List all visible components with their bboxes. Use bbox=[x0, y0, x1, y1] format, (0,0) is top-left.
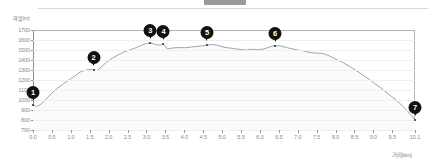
x-tick-label: 6.5 bbox=[275, 134, 282, 140]
y-gridline bbox=[33, 70, 415, 71]
y-tick-mark bbox=[31, 110, 33, 111]
waypoint-dot-4 bbox=[162, 43, 164, 45]
x-tick-mark bbox=[354, 130, 355, 133]
y-tick-label: 1600 bbox=[18, 37, 30, 43]
y-tick-mark bbox=[31, 80, 33, 81]
y-gridline bbox=[33, 30, 415, 31]
elevation-profile-widget: 해발(m) 1700160015001400130012001100100090… bbox=[0, 0, 437, 161]
y-tick-label: 800 bbox=[21, 117, 30, 123]
y-gridline bbox=[33, 120, 415, 121]
x-tick-label: 3.5 bbox=[162, 134, 169, 140]
y-axis-title: 해발(m) bbox=[13, 14, 30, 21]
y-tick-mark bbox=[31, 120, 33, 121]
scroll-handle[interactable] bbox=[204, 0, 246, 5]
waypoint-dot-6 bbox=[274, 45, 276, 47]
y-tick-label: 1700 bbox=[18, 27, 30, 33]
x-tick-mark bbox=[336, 130, 337, 133]
x-tick-label: 9.0 bbox=[370, 134, 377, 140]
y-gridline bbox=[33, 110, 415, 111]
y-tick-label: 900 bbox=[21, 107, 30, 113]
x-tick-label: 5.0 bbox=[218, 134, 225, 140]
x-tick-mark bbox=[415, 130, 416, 133]
y-tick-mark bbox=[31, 50, 33, 51]
x-tick-label: 6.0 bbox=[256, 134, 263, 140]
waypoint-marker-7[interactable]: 7 bbox=[409, 101, 422, 114]
x-tick-mark bbox=[392, 130, 393, 133]
x-tick-label: 3.0 bbox=[143, 134, 150, 140]
x-tick-label: 1.0 bbox=[67, 134, 74, 140]
waypoint-marker-5[interactable]: 5 bbox=[200, 26, 213, 39]
y-tick-mark bbox=[31, 30, 33, 31]
x-tick-mark bbox=[184, 130, 185, 133]
y-gridline bbox=[33, 100, 415, 101]
plot-area: 1700160015001400130012001100100090080070… bbox=[33, 30, 415, 130]
x-tick-mark bbox=[298, 130, 299, 133]
waypoint-marker-6[interactable]: 6 bbox=[269, 27, 282, 40]
x-tick-mark bbox=[146, 130, 147, 133]
waypoint-label-7[interactable]: 7 bbox=[409, 101, 422, 114]
x-axis-ticks: 0.00.51.01.52.02.53.03.54.04.55.05.56.06… bbox=[33, 130, 415, 156]
y-tick-mark bbox=[31, 40, 33, 41]
x-tick-label: 9.5 bbox=[389, 134, 396, 140]
x-tick-mark bbox=[109, 130, 110, 133]
top-strip bbox=[0, 0, 437, 12]
waypoint-label-4[interactable]: 4 bbox=[157, 25, 170, 38]
x-tick-mark bbox=[128, 130, 129, 133]
waypoint-marker-2[interactable]: 2 bbox=[87, 51, 100, 64]
waypoint-dot-2 bbox=[93, 69, 95, 71]
x-tick-label: 1.5 bbox=[86, 134, 93, 140]
x-tick-label: 8.0 bbox=[332, 134, 339, 140]
waypoint-marker-1[interactable]: 1 bbox=[27, 86, 40, 99]
x-tick-mark bbox=[33, 130, 34, 133]
x-tick-mark bbox=[203, 130, 204, 133]
x-tick-mark bbox=[317, 130, 318, 133]
y-gridline bbox=[33, 40, 415, 41]
y-gridline bbox=[33, 90, 415, 91]
waypoint-label-3[interactable]: 3 bbox=[144, 24, 157, 37]
header-divider bbox=[38, 8, 428, 9]
x-tick-label: 10.1 bbox=[410, 134, 420, 140]
x-tick-label: 2.0 bbox=[105, 134, 112, 140]
waypoint-label-1[interactable]: 1 bbox=[27, 86, 40, 99]
x-tick-mark bbox=[260, 130, 261, 133]
waypoint-marker-4[interactable]: 4 bbox=[157, 25, 170, 38]
waypoint-dot-3 bbox=[149, 42, 151, 44]
x-tick-mark bbox=[222, 130, 223, 133]
waypoint-label-2[interactable]: 2 bbox=[87, 51, 100, 64]
x-tick-mark bbox=[241, 130, 242, 133]
y-tick-label: 700 bbox=[21, 127, 30, 133]
waypoint-dot-7 bbox=[414, 119, 416, 121]
x-tick-label: 0.5 bbox=[48, 134, 55, 140]
x-tick-mark bbox=[165, 130, 166, 133]
x-tick-label: 8.5 bbox=[351, 134, 358, 140]
x-tick-mark bbox=[52, 130, 53, 133]
x-tick-mark bbox=[279, 130, 280, 133]
y-tick-label: 1300 bbox=[18, 67, 30, 73]
y-tick-mark bbox=[31, 70, 33, 71]
x-tick-mark bbox=[90, 130, 91, 133]
waypoint-dot-1 bbox=[32, 104, 34, 106]
x-tick-label: 5.5 bbox=[237, 134, 244, 140]
x-tick-label: 4.0 bbox=[181, 134, 188, 140]
y-tick-label: 1400 bbox=[18, 57, 30, 63]
x-tick-label: 7.5 bbox=[313, 134, 320, 140]
waypoint-label-6[interactable]: 6 bbox=[269, 27, 282, 40]
y-tick-label: 1500 bbox=[18, 47, 30, 53]
x-tick-label: 2.5 bbox=[124, 134, 131, 140]
waypoint-marker-3[interactable]: 3 bbox=[144, 24, 157, 37]
x-tick-label: 0.0 bbox=[29, 134, 36, 140]
y-gridline bbox=[33, 80, 415, 81]
x-tick-label: 7.0 bbox=[294, 134, 301, 140]
y-tick-label: 1200 bbox=[18, 77, 30, 83]
x-tick-mark bbox=[373, 130, 374, 133]
x-tick-label: 4.5 bbox=[200, 134, 207, 140]
x-axis-title: 거리(km) bbox=[392, 151, 412, 159]
waypoint-label-5[interactable]: 5 bbox=[200, 26, 213, 39]
y-tick-mark bbox=[31, 60, 33, 61]
waypoint-dot-5 bbox=[206, 44, 208, 46]
chart-container: 해발(m) 1700160015001400130012001100100090… bbox=[0, 12, 437, 161]
x-tick-mark bbox=[71, 130, 72, 133]
